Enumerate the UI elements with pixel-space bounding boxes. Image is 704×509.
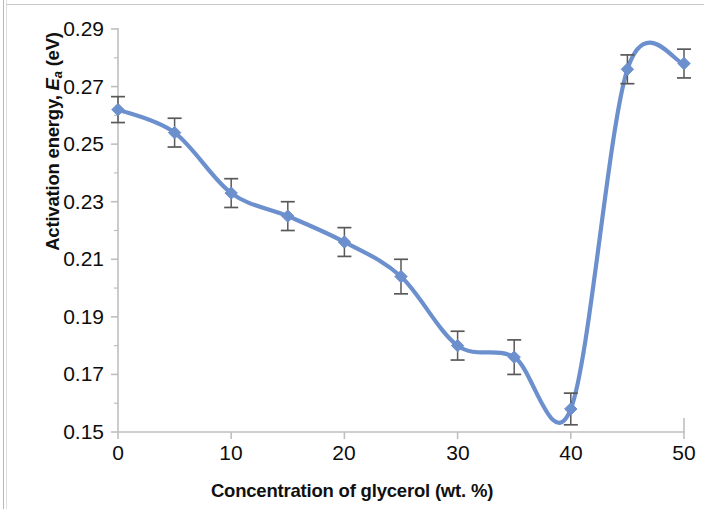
data-series-layer — [118, 43, 684, 423]
data-point-marker — [112, 103, 124, 115]
plot-area — [0, 0, 704, 509]
chart-figure: Activation energy, Ea (eV) Concentration… — [0, 0, 704, 509]
data-point-marker — [565, 403, 577, 415]
data-point-marker — [621, 63, 633, 75]
error-bars-layer — [111, 49, 691, 425]
data-markers-layer — [112, 57, 690, 415]
data-point-marker — [282, 210, 294, 222]
data-line — [118, 43, 684, 423]
